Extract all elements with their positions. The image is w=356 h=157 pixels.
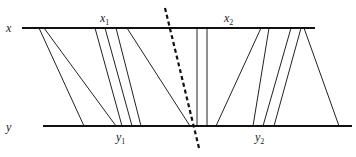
connection-line xyxy=(116,28,141,126)
connection-line xyxy=(253,28,269,126)
connection-line xyxy=(105,28,132,126)
label-x2: x2 xyxy=(223,11,233,27)
label-x1: x1 xyxy=(99,11,109,27)
connection-line xyxy=(274,28,301,126)
connection-line xyxy=(95,28,122,126)
connection-line xyxy=(39,28,84,126)
connection-line xyxy=(127,28,190,126)
connection-line xyxy=(216,28,261,126)
matching-diagram: x y x1 x2 y1 y2 xyxy=(0,0,356,157)
label-y2: y2 xyxy=(254,130,264,146)
connection-line xyxy=(44,28,116,126)
label-y: y xyxy=(5,120,12,134)
label-x: x xyxy=(5,21,12,35)
connection-line xyxy=(304,28,339,126)
connection-line xyxy=(263,28,291,126)
label-y1: y1 xyxy=(115,130,125,146)
